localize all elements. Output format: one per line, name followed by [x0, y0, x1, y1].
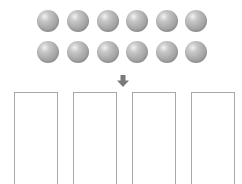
arrow-down-icon: [117, 75, 129, 87]
container-box: [14, 92, 58, 184]
ball-icon: [67, 10, 89, 32]
container-box: [191, 92, 235, 184]
ball-icon: [156, 41, 178, 63]
ball-icon: [185, 10, 207, 32]
ball-icon: [37, 10, 59, 32]
ball-icon: [156, 10, 178, 32]
ball-icon: [126, 41, 148, 63]
container-box: [132, 92, 176, 184]
ball-icon: [126, 10, 148, 32]
ball-icon: [97, 10, 119, 32]
ball-icon: [67, 41, 89, 63]
ball-icon: [185, 41, 207, 63]
ball-icon: [97, 41, 119, 63]
container-box: [73, 92, 117, 184]
ball-icon: [37, 41, 59, 63]
